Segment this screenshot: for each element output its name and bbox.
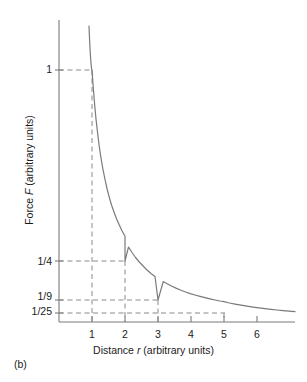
- y-axis-title-symbol: F: [23, 189, 35, 195]
- x-axis-title: Distance r (arbitrary units): [0, 344, 307, 356]
- x-tick-label-2: 2: [115, 329, 135, 340]
- guide-lines-vertical: [92, 70, 224, 322]
- panel-caption: (b): [14, 358, 27, 370]
- x-axis-title-prefix: Distance: [93, 344, 137, 356]
- x-axis-title-suffix: (arbitrary units): [140, 344, 214, 356]
- y-axis-title-suffix: (arbitrary units): [23, 115, 35, 189]
- x-tick-label-4: 4: [181, 329, 201, 340]
- inverse-square-curve: [89, 26, 295, 312]
- y-tick-label-one-ninth: 1/9: [22, 291, 52, 302]
- figure-panel: 1 1/4 1/9 1/25 1 2 3 4 5 6 Distance r (a…: [0, 0, 307, 382]
- x-tick-label-1: 1: [82, 329, 102, 340]
- inverse-square-plot: [0, 0, 307, 382]
- y-axis-title-prefix: Force: [23, 195, 35, 225]
- y-tick-label-1: 1: [28, 64, 52, 75]
- x-axis-ticks: [92, 316, 257, 322]
- y-axis-title: Force F (arbitrary units): [23, 80, 35, 260]
- y-tick-label-one-twentyfifth: 1/25: [18, 306, 52, 317]
- guide-lines-horizontal: [59, 70, 225, 313]
- x-tick-label-3: 3: [148, 329, 168, 340]
- x-tick-label-5: 5: [214, 329, 234, 340]
- x-tick-label-6: 6: [247, 329, 267, 340]
